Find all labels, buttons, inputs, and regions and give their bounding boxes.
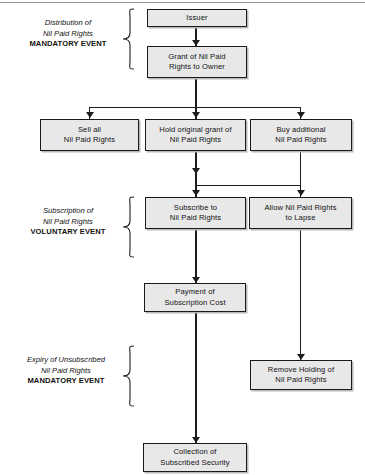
- node-grant-of-nil-paid-rights[interactable]: Grant of Nil Paid Rights to Owner: [147, 46, 247, 78]
- arrowhead-bus2-to-subscribe: [192, 190, 200, 196]
- node-collection-of-subscribed-security[interactable]: Collection of Subscribed Security: [143, 443, 247, 472]
- connector-buy-to-bus2: [300, 151, 301, 186]
- connector-grant-to-bus: [195, 78, 196, 108]
- node-buy-additional-nil-paid-rights-label: Buy additional Nil Paid Rights: [275, 125, 326, 146]
- section-label-distribution-line1: Distribution of: [14, 18, 122, 29]
- node-subscribe-to-nil-paid-rights-label: Subscribe to Nil Paid Rights: [170, 203, 221, 224]
- section-label-expiry-line2: Nil Paid Rights: [10, 366, 122, 377]
- section-label-expiry: Expiry of Unsubscribed Nil Paid Rights M…: [10, 355, 122, 387]
- arrowhead-bus-to-sell: [86, 112, 94, 118]
- node-subscribe-to-nil-paid-rights[interactable]: Subscribe to Nil Paid Rights: [145, 197, 246, 229]
- brace-expiry: [122, 345, 136, 407]
- node-payment-of-subscription-cost-label: Payment of Subscription Cost: [164, 287, 225, 308]
- brace-distribution: [122, 8, 136, 70]
- connector-bus-subscription: [195, 185, 301, 186]
- node-hold-original-grant[interactable]: Hold original grant of Nil Paid Rights: [145, 119, 246, 151]
- node-remove-holding-of-nil-paid-rights[interactable]: Remove Holding of Nil Paid Rights: [250, 360, 352, 390]
- node-sell-all-nil-paid-rights[interactable]: Sell all Nil Paid Rights: [40, 119, 139, 151]
- section-label-subscription: Subscription of Nil Paid Rights VOLUNTAR…: [14, 206, 122, 238]
- node-allow-nil-paid-rights-to-lapse[interactable]: Allow Nil Paid Rights to Lapse: [249, 197, 352, 229]
- node-collection-of-subscribed-security-label: Collection of Subscribed Security: [160, 447, 229, 468]
- arrowhead-bus-to-buy: [297, 112, 305, 118]
- node-hold-original-grant-label: Hold original grant of Nil Paid Rights: [159, 125, 231, 146]
- section-label-expiry-line3: MANDATORY EVENT: [10, 376, 122, 387]
- section-label-distribution: Distribution of Nil Paid Rights MANDATOR…: [14, 18, 122, 50]
- section-label-distribution-line2: Nil Paid Rights: [14, 29, 122, 40]
- arrowhead-bus2-to-lapse: [297, 190, 305, 196]
- node-buy-additional-nil-paid-rights[interactable]: Buy additional Nil Paid Rights: [250, 119, 352, 151]
- flowchart-canvas: Distribution of Nil Paid Rights MANDATOR…: [0, 0, 365, 475]
- section-label-subscription-line2: Nil Paid Rights: [14, 217, 122, 228]
- section-label-expiry-line1: Expiry of Unsubscribed: [10, 355, 122, 366]
- node-payment-of-subscription-cost[interactable]: Payment of Subscription Cost: [144, 283, 246, 312]
- connector-payment-to-collection: [195, 312, 196, 445]
- node-issuer-label: Issuer: [186, 13, 207, 24]
- node-grant-of-nil-paid-rights-label: Grant of Nil Paid Rights to Owner: [168, 52, 225, 73]
- brace-subscription: [122, 196, 136, 258]
- page-top-rule: [0, 2, 365, 3]
- node-issuer[interactable]: Issuer: [147, 9, 247, 27]
- node-remove-holding-of-nil-paid-rights-label: Remove Holding of Nil Paid Rights: [268, 365, 334, 386]
- section-label-subscription-line1: Subscription of: [14, 206, 122, 217]
- connector-lapse-to-remove: [300, 229, 301, 362]
- section-label-subscription-line3: VOLUNTARY EVENT: [14, 227, 122, 238]
- arrowhead-bus-to-hold: [192, 112, 200, 118]
- node-allow-nil-paid-rights-to-lapse-label: Allow Nil Paid Rights to Lapse: [264, 203, 336, 224]
- section-label-distribution-line3: MANDATORY EVENT: [14, 39, 122, 50]
- node-sell-all-nil-paid-rights-label: Sell all Nil Paid Rights: [64, 125, 115, 146]
- arrowhead-hold-midline: [192, 168, 200, 174]
